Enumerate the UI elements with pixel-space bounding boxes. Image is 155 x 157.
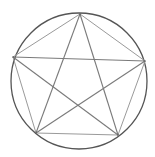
vertex-right xyxy=(144,60,146,62)
pentagon-edge-bottom-right-bottom-left xyxy=(36,133,118,135)
circumscribed-circle xyxy=(11,13,147,149)
vertex-bottom-right xyxy=(117,134,119,136)
pentagon-edge-left-top xyxy=(13,14,80,57)
pentagon-edge-top-right xyxy=(80,14,145,61)
pentagram-edge-right-bottom-left xyxy=(36,61,145,133)
pentagram-diagram xyxy=(0,0,155,157)
pentagram-edge-left-right xyxy=(13,57,145,61)
pentagram-edge-top-bottom-right xyxy=(80,14,118,135)
pentagram-edge-bottom-left-top xyxy=(36,14,80,133)
vertex-top xyxy=(79,13,81,15)
pentagram-edge-bottom-right-left xyxy=(13,57,118,135)
vertex-left xyxy=(12,56,14,58)
vertex-bottom-left xyxy=(35,132,37,134)
